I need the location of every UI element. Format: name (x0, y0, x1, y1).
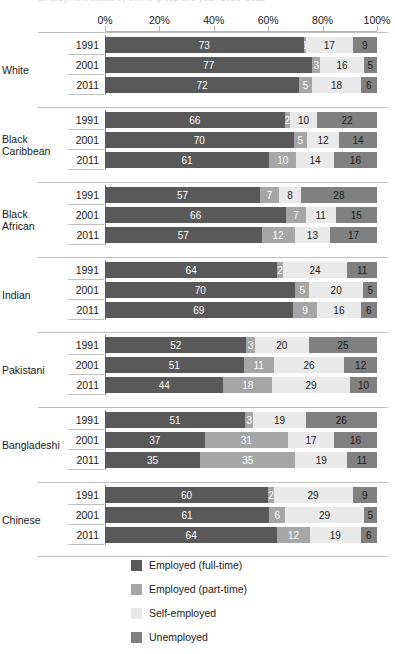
chart-row: 20017051214 (0, 130, 388, 150)
stacked-bar: 577828 (105, 187, 377, 203)
bar-segment: 6 (361, 527, 377, 543)
plot-area: White199173117920017731652011725186Black… (0, 32, 388, 552)
bar-segment: 28 (301, 187, 377, 203)
bar-segment-value: 29 (319, 510, 330, 521)
row-divider (68, 469, 104, 470)
bar-segment: 5 (363, 282, 377, 298)
bar-segment-value: 22 (341, 115, 352, 126)
chart-row: 19915131926 (0, 410, 388, 430)
bar-segment-value: 19 (274, 415, 285, 426)
row-year-label: 1991 (68, 410, 102, 430)
row-divider (68, 169, 104, 170)
stacked-bar: 705205 (105, 282, 377, 298)
bar-segment-value: 26 (336, 415, 347, 426)
row-year-label: 2001 (68, 505, 102, 525)
bar-segment: 3 (246, 337, 254, 353)
legend-swatch (131, 584, 142, 595)
bar-segment: 18 (223, 377, 271, 393)
x-axis-tick-mark (323, 26, 324, 31)
bar-segment-value: 73 (199, 40, 210, 51)
bar-segment: 19 (253, 412, 305, 428)
bar-segment: 60 (105, 487, 268, 503)
chart-group: Indian1991642241120017052052011699166 (0, 257, 388, 332)
bar-segment-value: 3 (248, 340, 254, 351)
stacked-bar: 725186 (105, 77, 377, 93)
chart-row: 20016671115 (0, 205, 388, 225)
legend-item: Employed (full-time) (131, 558, 242, 572)
bar-segment-value: 9 (362, 40, 368, 51)
bar-segment: 3 (245, 412, 253, 428)
bar-segment-value: 6 (366, 80, 372, 91)
bar-segment-value: 61 (182, 510, 193, 521)
bar-segment-value: 35 (147, 455, 158, 466)
bar-segment: 66 (105, 112, 285, 128)
chart-row: 1991602299 (0, 485, 388, 505)
bar-segment-value: 70 (195, 285, 206, 296)
x-axis-tick-mark (377, 26, 378, 31)
chart-row: 19915232025 (0, 335, 388, 355)
bar-segment: 31 (205, 432, 288, 448)
bar-segment-value: 5 (297, 135, 303, 146)
bar-segment: 7 (260, 187, 279, 203)
bar-segment-value: 51 (169, 415, 180, 426)
bar-segment-value: 31 (241, 435, 252, 446)
bar-segment: 14 (339, 132, 377, 148)
row-year-label: 1991 (68, 485, 102, 505)
group-divider (38, 482, 388, 483)
bar-segment: 26 (274, 357, 345, 373)
bar-segment: 5 (299, 77, 312, 93)
bar-segment-value: 37 (149, 435, 160, 446)
bar-segment-value: 51 (169, 360, 180, 371)
stacked-bar: 773165 (105, 57, 377, 73)
chart-row: 1991577828 (0, 185, 388, 205)
bar-segment-value: 69 (193, 305, 204, 316)
bar-segment: 70 (105, 132, 294, 148)
bar-segment-value: 29 (305, 380, 316, 391)
bar-segment-value: 7 (267, 190, 273, 201)
bar-segment-value: 15 (351, 210, 362, 221)
chart-row: 19916621022 (0, 110, 388, 130)
row-year-label: 1991 (68, 335, 102, 355)
chart-title-cropped: Employment status by ethnic group and ye… (38, 0, 338, 5)
chart-legend: Employed (full-time)Employed (part-time)… (0, 556, 388, 654)
row-year-label: 2011 (68, 150, 102, 170)
bar-segment: 11 (347, 452, 377, 468)
legend-swatch (131, 560, 142, 571)
x-axis-tick-label: 40% (192, 14, 236, 26)
row-year-label: 2001 (68, 430, 102, 450)
row-divider (68, 244, 104, 245)
bar-segment: 5 (294, 132, 307, 148)
bar-segment-value: 52 (170, 340, 181, 351)
bar-segment: 16 (320, 57, 363, 73)
bar-segment-value: 64 (186, 530, 197, 541)
stacked-bar: 35351911 (105, 452, 377, 468)
bar-segment: 12 (262, 227, 295, 243)
bar-segment: 16 (334, 152, 377, 168)
bar-segment: 57 (105, 227, 262, 243)
bar-segment: 51 (105, 357, 244, 373)
bar-segment-value: 12 (288, 530, 299, 541)
bar-segment-value: 70 (194, 135, 205, 146)
bar-segment: 24 (283, 262, 348, 278)
bar-segment-value: 20 (276, 340, 287, 351)
bar-segment: 52 (105, 337, 246, 353)
chart-row: 2001616295 (0, 505, 388, 525)
x-axis-tick-labels: 0%20%40%60%80%100% (0, 14, 388, 28)
bar-segment-value: 14 (353, 135, 364, 146)
bar-segment: 11 (244, 357, 274, 373)
row-divider (68, 94, 104, 95)
row-year-label: 1991 (68, 260, 102, 280)
group-divider (38, 32, 388, 33)
bar-segment: 14 (296, 152, 334, 168)
stacked-bar: 37311716 (105, 432, 377, 448)
bar-segment-value: 5 (299, 285, 305, 296)
bar-segment: 61 (105, 152, 269, 168)
legend-label: Unemployed (149, 631, 208, 643)
chart-group: BlackCaribbean19916621022200170512142011… (0, 107, 388, 182)
bar-segment-value: 25 (337, 340, 348, 351)
bar-segment: 66 (105, 207, 286, 223)
chart-group: White199173117920017731652011725186 (0, 32, 388, 107)
chart-group: Chinese1991602299200161629520116412196 (0, 482, 388, 557)
bar-segment-value: 66 (189, 115, 200, 126)
x-axis-tick-mark (214, 26, 215, 31)
